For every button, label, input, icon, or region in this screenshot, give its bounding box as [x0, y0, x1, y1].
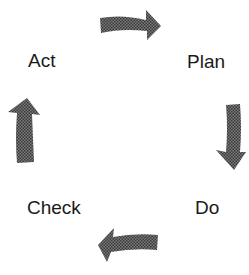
arrow-down-icon	[216, 104, 246, 170]
pdca-cycle-diagram: Act Plan Check Do	[0, 0, 249, 275]
arrow-right-icon	[100, 10, 161, 40]
node-check: Check	[27, 198, 81, 217]
node-do: Do	[195, 198, 219, 217]
arrows-layer	[0, 0, 249, 275]
node-act: Act	[28, 51, 55, 70]
node-plan: Plan	[187, 52, 225, 71]
arrow-up-icon	[8, 98, 40, 163]
arrow-left-icon	[98, 228, 158, 262]
